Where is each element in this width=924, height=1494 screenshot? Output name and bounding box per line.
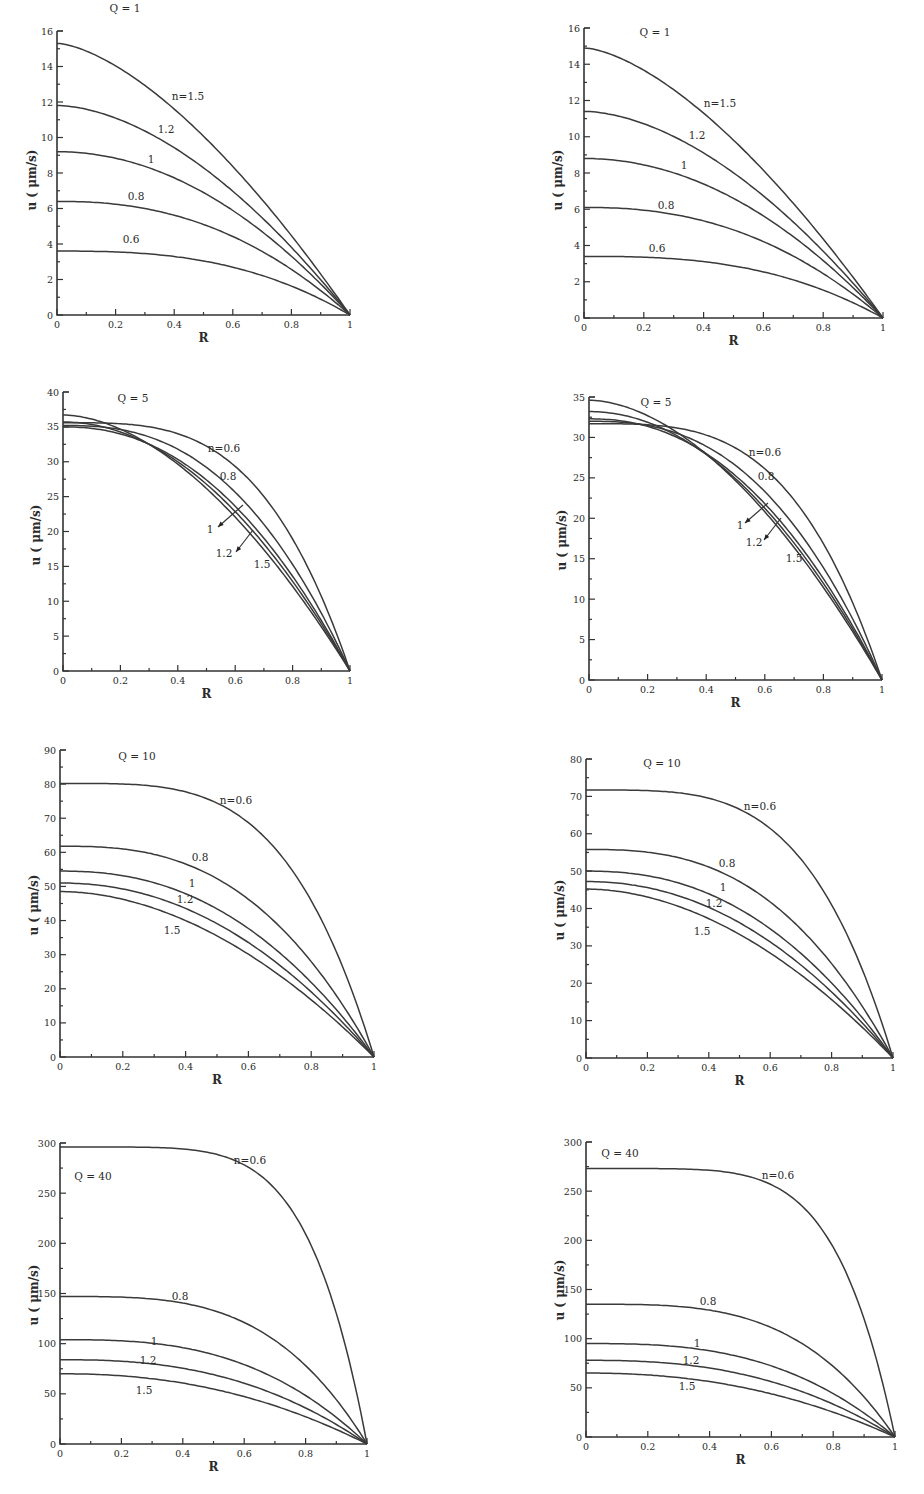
curve-n-1 xyxy=(586,1344,895,1437)
y-tick-label: 60 xyxy=(570,828,582,839)
x-tick-label: 0.4 xyxy=(170,675,185,686)
y-tick-label: 50 xyxy=(44,881,56,892)
x-axis-label: R xyxy=(735,1074,746,1088)
y-tick-label: 300 xyxy=(38,1138,56,1149)
y-tick-label: 50 xyxy=(570,1382,582,1393)
curve-label: 0.6 xyxy=(123,233,140,245)
y-tick-label: 80 xyxy=(570,754,582,765)
y-tick-label: 15 xyxy=(573,553,585,564)
x-tick-label: 0.6 xyxy=(228,675,243,686)
curve-label: 1.5 xyxy=(136,1384,153,1396)
curve-label: 1.2 xyxy=(177,893,194,905)
y-tick-label: 12 xyxy=(41,97,53,108)
y-tick-label: 30 xyxy=(47,456,59,467)
y-tick-label: 10 xyxy=(570,1015,582,1026)
y-tick-label: 2 xyxy=(47,274,53,285)
curve-label: n=0.6 xyxy=(220,794,253,806)
y-tick-label: 80 xyxy=(44,779,56,790)
axis-lines xyxy=(586,1142,895,1437)
curve-n-1 xyxy=(60,871,374,1057)
y-tick-label: 30 xyxy=(570,940,582,951)
x-tick-label: 1 xyxy=(890,1062,896,1073)
y-tick-label: 40 xyxy=(47,387,59,398)
y-tick-label: 30 xyxy=(44,949,56,960)
y-tick-label: 250 xyxy=(564,1186,582,1197)
y-tick-label: 16 xyxy=(41,26,53,37)
curve-label: 1.2 xyxy=(683,1354,700,1366)
y-axis-label: u ( μm/s) xyxy=(555,509,569,570)
y-tick-label: 40 xyxy=(570,903,582,914)
x-tick-label: 0.8 xyxy=(298,1448,313,1459)
curve-label: 0.8 xyxy=(220,470,237,482)
y-tick-label: 0 xyxy=(50,1439,56,1450)
x-tick-label: 0.2 xyxy=(113,675,128,686)
y-tick-label: 20 xyxy=(573,513,585,524)
y-tick-label: 70 xyxy=(570,791,582,802)
x-tick-label: 0.6 xyxy=(763,1062,778,1073)
curve-label: 1.2 xyxy=(216,547,233,559)
panel-title: Q = 5 xyxy=(118,392,149,404)
y-tick-label: 14 xyxy=(568,59,580,70)
y-axis-label: u ( μm/s) xyxy=(553,879,567,940)
y-tick-label: 40 xyxy=(44,915,56,926)
panel-title: Q = 40 xyxy=(74,1170,111,1182)
curve-label: 0.8 xyxy=(758,470,775,482)
curve-n-0.6 xyxy=(57,251,350,315)
x-tick-label: 0 xyxy=(60,675,66,686)
y-tick-label: 25 xyxy=(573,472,585,483)
curve-n-1.5 xyxy=(589,400,882,680)
x-axis-label: R xyxy=(736,1453,747,1467)
x-axis-label: R xyxy=(199,331,210,345)
x-axis-label: R xyxy=(202,687,213,701)
y-tick-label: 20 xyxy=(47,526,59,537)
x-axis-label: R xyxy=(729,334,740,348)
y-tick-label: 2 xyxy=(574,276,580,287)
curve-label: 1 xyxy=(694,1337,701,1349)
panel-title: Q = 1 xyxy=(110,2,141,14)
x-axis-label: R xyxy=(209,1460,220,1474)
y-tick-label: 20 xyxy=(570,978,582,989)
y-tick-label: 35 xyxy=(573,392,585,403)
curve-n-0.6 xyxy=(584,256,883,318)
figure-canvas: 00.20.40.60.810246810121416Ru ( μm/s)Q =… xyxy=(0,0,924,1494)
curve-label: 1 xyxy=(207,523,214,535)
curve-n-1.2 xyxy=(60,1360,367,1444)
y-tick-label: 200 xyxy=(38,1238,56,1249)
x-tick-label: 0.8 xyxy=(816,684,831,695)
curve-n-1.2 xyxy=(63,422,350,671)
x-tick-label: 0 xyxy=(583,1441,589,1452)
curve-label: 1 xyxy=(189,877,196,889)
x-tick-label: 0.6 xyxy=(225,319,240,330)
curve-n-0.8 xyxy=(60,1297,367,1445)
x-tick-label: 0 xyxy=(583,1062,589,1073)
y-tick-label: 4 xyxy=(47,239,53,250)
y-tick-label: 90 xyxy=(44,745,56,756)
curve-n-1 xyxy=(63,427,350,671)
y-tick-label: 4 xyxy=(574,240,580,251)
curve-label: 0.8 xyxy=(192,851,209,863)
x-tick-label: 0 xyxy=(581,322,587,333)
x-tick-label: 0.6 xyxy=(756,322,771,333)
y-tick-label: 10 xyxy=(41,132,53,143)
panel-title: Q = 10 xyxy=(643,757,680,769)
curve-label: 0.6 xyxy=(649,242,666,254)
x-tick-label: 1 xyxy=(880,322,886,333)
y-tick-label: 70 xyxy=(44,813,56,824)
curve-label: 1 xyxy=(151,1335,158,1347)
curve-label: 1 xyxy=(148,153,155,165)
curve-n-0.8 xyxy=(57,201,350,315)
curve-label: 1.2 xyxy=(689,129,706,141)
x-tick-label: 0.2 xyxy=(640,1062,655,1073)
y-axis-label: u ( μm/s) xyxy=(29,504,43,565)
curve-label: n=1.5 xyxy=(704,97,736,109)
y-tick-label: 25 xyxy=(47,491,59,502)
curve-label: 0.8 xyxy=(719,857,736,869)
axis-lines xyxy=(60,750,374,1057)
x-tick-label: 0 xyxy=(57,1061,63,1072)
curve-n-1.5 xyxy=(63,415,350,671)
x-tick-label: 0.2 xyxy=(115,1061,130,1072)
y-tick-label: 6 xyxy=(47,203,53,214)
x-tick-label: 0.4 xyxy=(167,319,182,330)
curve-label: n=0.6 xyxy=(208,442,241,454)
curve-n-0.8 xyxy=(63,426,350,672)
